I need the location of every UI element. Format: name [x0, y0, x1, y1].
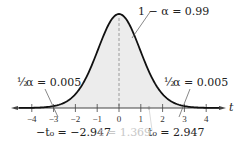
t-distribution-chart: t −4−3−2−101234 1 − α = 0.99 ½ α = 0.005… [0, 0, 238, 149]
tick-label: 2 [160, 114, 165, 124]
pos-critical-label: t₀ = 2.947 [148, 126, 205, 139]
right-tail-label: α = 0.005 [173, 76, 228, 89]
left-tail-label: α = 0.005 [26, 76, 81, 89]
axis-right-arrow-icon [219, 106, 226, 110]
tick-label: 0 [117, 114, 122, 124]
axis-left-arrow-icon [11, 106, 18, 110]
tick-label: 1 [139, 114, 144, 124]
test-stat-marker [148, 107, 151, 110]
tick-label: −1 [92, 114, 102, 124]
tick-label: 4 [204, 114, 209, 124]
center-area-label: 1 − α = 0.99 [138, 5, 209, 18]
axis-label-t: t [229, 101, 234, 114]
tick-label: 3 [182, 114, 187, 124]
tick-label: −2 [71, 114, 81, 124]
right-tail-leader-line [179, 89, 190, 117]
left-tail-leader-line [45, 89, 58, 117]
test-statistic-label: t = 1.369 [99, 126, 151, 139]
tick-label: −4 [27, 114, 37, 124]
